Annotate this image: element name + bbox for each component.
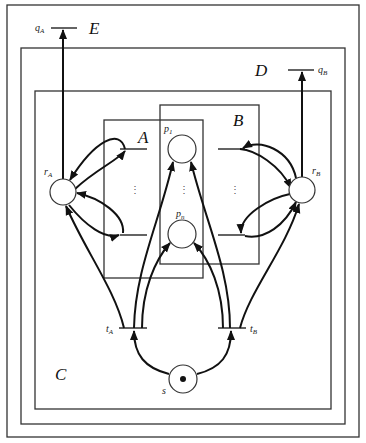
place-s-label: s	[162, 385, 166, 396]
arc-ra-to-a-top	[75, 151, 125, 189]
token-dot	[180, 376, 186, 382]
place-rb-label: rB	[312, 165, 321, 178]
transition-ta-label: tA	[106, 323, 114, 336]
place-p1	[168, 135, 196, 163]
transition-tb-label: tB	[250, 323, 258, 336]
region-d-label: D	[254, 61, 268, 80]
place-ra-label: rA	[44, 166, 53, 179]
arc-s-to-tb	[197, 331, 231, 374]
arc-s-to-ta	[134, 331, 169, 374]
ellipsis-a: ⋮	[130, 184, 140, 195]
ellipsis-b: ⋮	[230, 184, 240, 195]
region-b-label: B	[233, 111, 244, 130]
place-p1-label: p1	[163, 123, 173, 136]
place-ra	[50, 179, 76, 205]
region-e-label: E	[88, 19, 100, 38]
arc-a-bottom-to-ra	[77, 193, 123, 233]
petri-net-diagram: E D C A B qA qB rA rB p1 pn ⋮ ⋮ ⋮ tA tB	[0, 0, 366, 443]
ellipsis-p: ⋮	[179, 184, 189, 195]
place-pn	[168, 220, 196, 248]
region-a-label: A	[137, 128, 149, 147]
arc-ta-to-ra	[66, 206, 124, 328]
place-pn-label: pn	[175, 208, 185, 221]
arc-a-top-to-ra	[70, 139, 125, 180]
arc-tb-to-rb	[240, 204, 299, 328]
arc-rb-to-b-bottom	[241, 194, 290, 233]
transition-qa-label: qA	[35, 22, 45, 35]
region-c-label: C	[55, 365, 67, 384]
place-rb	[289, 177, 315, 203]
transition-qb-label: qB	[318, 64, 328, 77]
